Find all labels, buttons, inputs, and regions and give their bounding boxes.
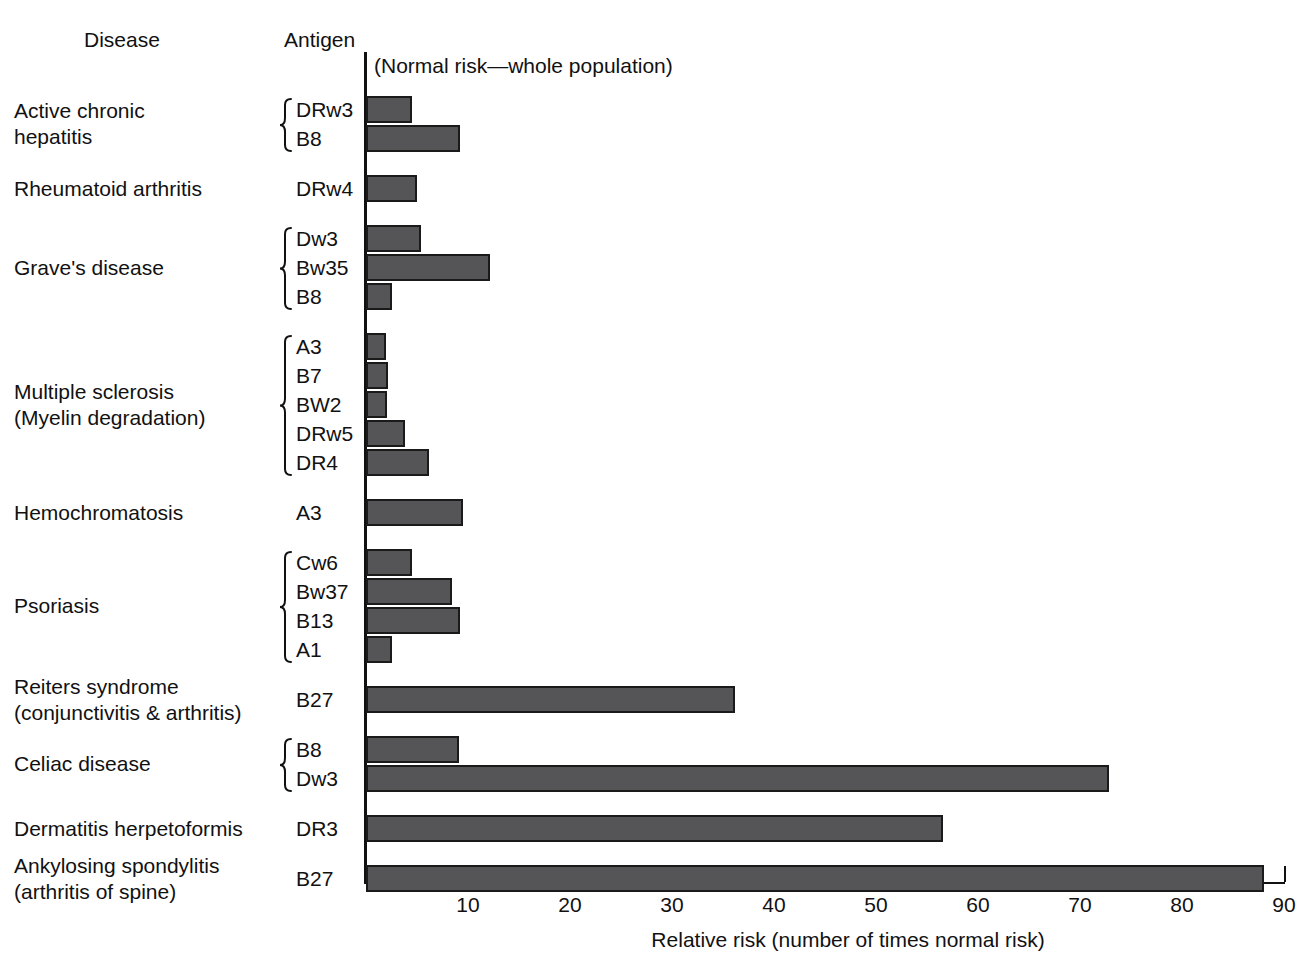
antigen-label: DRw4 [296, 177, 353, 201]
antigen-label: DRw5 [296, 422, 353, 446]
group-brace [278, 335, 294, 476]
normal-risk-annotation: (Normal risk—whole population) [374, 54, 673, 78]
disease-label: Multiple sclerosis (Myelin degradation) [14, 379, 282, 431]
bar [366, 254, 490, 281]
bar [366, 607, 460, 634]
antigen-label: A1 [296, 638, 322, 662]
antigen-label: B8 [296, 738, 322, 762]
bar [366, 391, 387, 418]
group-brace [278, 551, 294, 663]
antigen-label: A3 [296, 501, 322, 525]
antigen-label: B7 [296, 364, 322, 388]
antigen-label: B13 [296, 609, 333, 633]
disease-label: Psoriasis [14, 593, 282, 619]
relative-risk-chart: Disease Antigen (Normal risk—whole popul… [0, 0, 1316, 964]
disease-label: Rheumatoid arthritis [14, 176, 282, 202]
disease-label: Active chronic hepatitis [14, 98, 282, 150]
antigen-label: DR3 [296, 817, 338, 841]
x-axis-tick-label: 70 [1068, 893, 1091, 917]
x-axis-tick-label: 20 [558, 893, 581, 917]
bar [366, 815, 943, 842]
antigen-label: B27 [296, 688, 333, 712]
bar [366, 449, 429, 476]
bar [366, 636, 392, 663]
group-brace [278, 738, 294, 792]
antigen-label: Bw37 [296, 580, 349, 604]
antigen-label: Bw35 [296, 256, 349, 280]
bar [366, 362, 388, 389]
x-axis-tick [1284, 866, 1286, 882]
bar [366, 736, 459, 763]
disease-label: Grave's disease [14, 255, 282, 281]
antigen-label: A3 [296, 335, 322, 359]
disease-label: Hemochromatosis [14, 500, 282, 526]
bar [366, 549, 412, 576]
group-brace [278, 227, 294, 310]
antigen-label: Dw3 [296, 767, 338, 791]
bar [366, 96, 412, 123]
bar [366, 686, 735, 713]
disease-label: Celiac disease [14, 751, 282, 777]
disease-label: Reiters syndrome (conjunctivitis & arthr… [14, 674, 282, 726]
antigen-label: B8 [296, 285, 322, 309]
bar [366, 499, 463, 526]
bar [366, 333, 386, 360]
bar [366, 578, 452, 605]
bar [366, 765, 1109, 792]
x-axis-tick-label: 30 [660, 893, 683, 917]
bar [366, 865, 1264, 892]
antigen-label: B27 [296, 867, 333, 891]
column-header-disease: Disease [84, 28, 160, 52]
x-axis-title: Relative risk (number of times normal ri… [651, 928, 1044, 952]
bar [366, 420, 405, 447]
antigen-label: B8 [296, 127, 322, 151]
x-axis-tick-label: 40 [762, 893, 785, 917]
x-axis-tick-label: 90 [1272, 893, 1295, 917]
antigen-label: DRw3 [296, 98, 353, 122]
antigen-label: Cw6 [296, 551, 338, 575]
bar [366, 283, 392, 310]
disease-label: Dermatitis herpetoformis [14, 816, 282, 842]
disease-label: Ankylosing spondylitis (arthritis of spi… [14, 853, 282, 905]
antigen-label: BW2 [296, 393, 342, 417]
antigen-label: Dw3 [296, 227, 338, 251]
antigen-label: DR4 [296, 451, 338, 475]
column-header-antigen: Antigen [284, 28, 355, 52]
bar [366, 175, 417, 202]
x-axis-tick-label: 50 [864, 893, 887, 917]
x-axis-tick-label: 80 [1170, 893, 1193, 917]
group-brace [278, 98, 294, 152]
x-axis-tick-label: 60 [966, 893, 989, 917]
bar [366, 225, 421, 252]
x-axis-tick-label: 10 [456, 893, 479, 917]
bar [366, 125, 460, 152]
